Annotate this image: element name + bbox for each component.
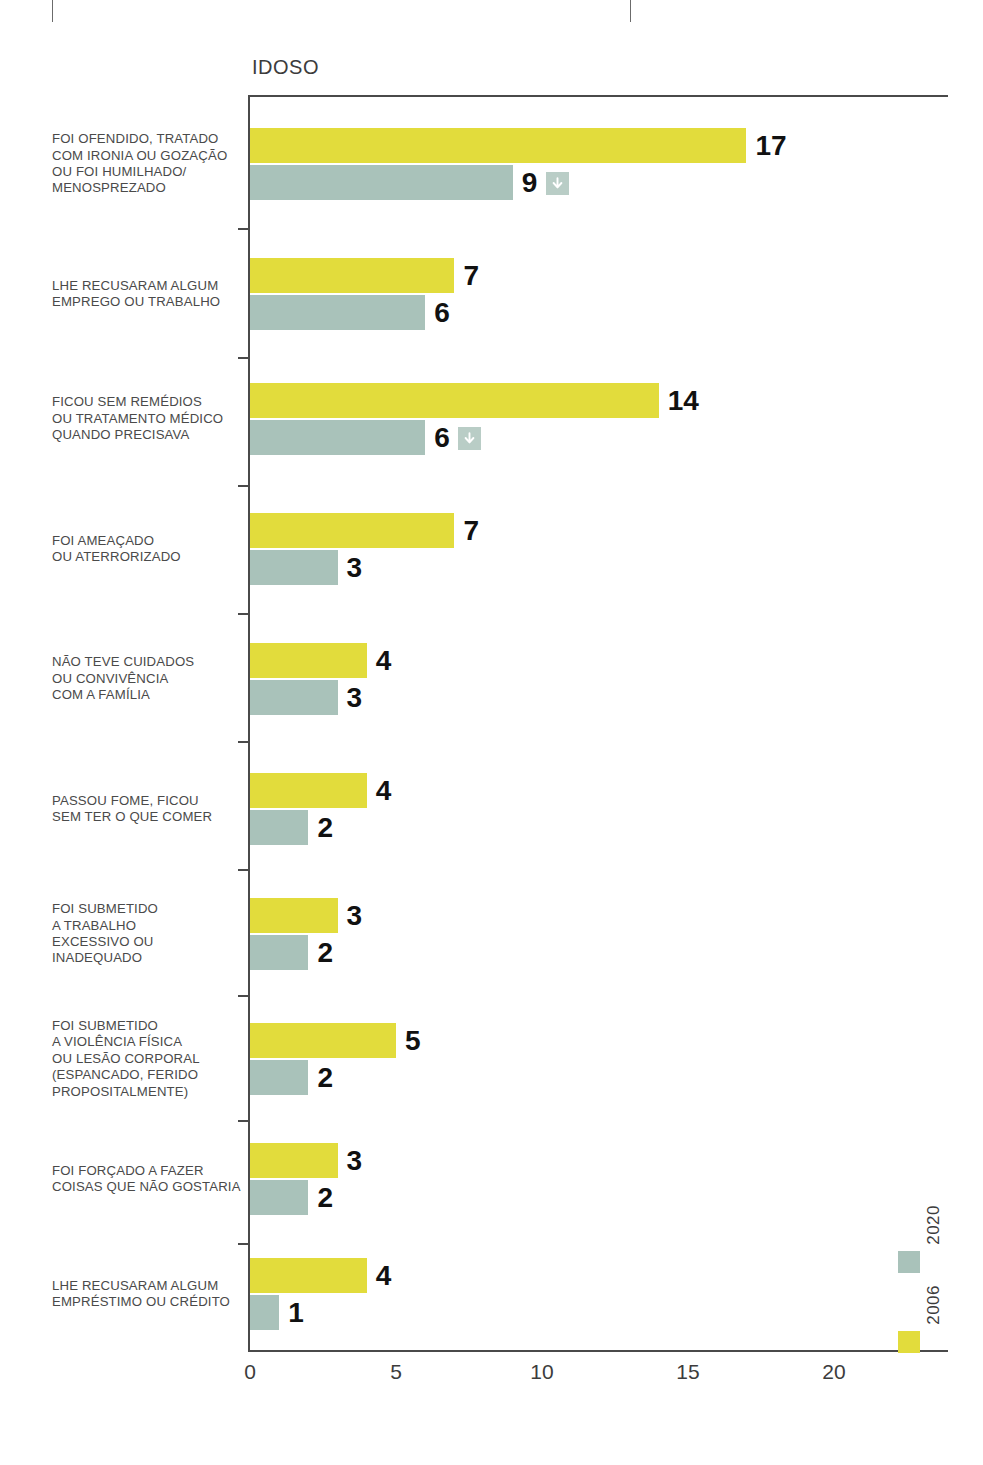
bar-2020-cat-6[interactable]	[250, 935, 308, 970]
bar-2006-cat-9[interactable]	[250, 1258, 367, 1293]
bar-value-2020-cat-6: 2	[317, 939, 333, 967]
bar-2020-cat-8[interactable]	[250, 1180, 308, 1215]
category-label-line: COISAS QUE NÃO GOSTARIA	[52, 1179, 247, 1195]
category-label-6: FOI SUBMETIDOA TRABALHOEXCESSIVO OUINADE…	[52, 901, 247, 967]
bar-2006-cat-0[interactable]	[250, 128, 746, 163]
category-label-line: COM A FAMÍLIA	[52, 687, 247, 703]
bar-value-2020-cat-8: 2	[317, 1184, 333, 1212]
category-label-1: LHE RECUSARAM ALGUMEMPREGO OU TRABALHO	[52, 278, 247, 311]
category-label-8: FOI FORÇADO A FAZERCOISAS QUE NÃO GOSTAR…	[52, 1163, 247, 1196]
x-tick-label-10: 10	[530, 1360, 553, 1384]
legend-swatch-2020	[898, 1251, 920, 1273]
x-tick-label-15: 15	[676, 1360, 699, 1384]
category-label-line: SEM TER O QUE COMER	[52, 809, 247, 825]
bar-2020-cat-9[interactable]	[250, 1295, 279, 1330]
category-label-line: A VIOLÊNCIA FÍSICA	[52, 1034, 247, 1050]
plot-top-rule	[248, 95, 948, 97]
bar-value-2020-cat-1: 6	[434, 299, 450, 327]
bar-2020-cat-4[interactable]	[250, 680, 338, 715]
category-label-line: OU TRATAMENTO MÉDICO	[52, 411, 247, 427]
legend-label-2020: 2020	[924, 1205, 944, 1245]
category-label-line: COM IRONIA OU GOZAÇÃO	[52, 148, 247, 164]
bar-2006-cat-2[interactable]	[250, 383, 659, 418]
arrow-down-icon	[458, 427, 481, 450]
bar-2006-cat-3[interactable]	[250, 513, 454, 548]
bar-value-2006-cat-5: 4	[376, 777, 392, 805]
y-axis-tick-3	[238, 613, 249, 615]
bar-value-2020-cat-5: 2	[317, 814, 333, 842]
category-label-line: FICOU SEM REMÉDIOS	[52, 394, 247, 410]
crop-mark-left	[52, 0, 53, 22]
bar-value-2006-cat-0: 17	[755, 132, 786, 160]
x-tick-label-0: 0	[244, 1360, 256, 1384]
y-axis-tick-1	[238, 357, 249, 359]
chart-canvas: IDOSO 05101520 FOI OFENDIDO, TRATADOCOM …	[0, 0, 983, 1465]
category-label-line: PASSOU FOME, FICOU	[52, 793, 247, 809]
bar-value-2006-cat-4: 4	[376, 647, 392, 675]
chart-legend: 2020 2006	[898, 1205, 958, 1345]
bar-value-2020-cat-9: 1	[288, 1299, 304, 1327]
y-axis-tick-0	[238, 228, 249, 230]
category-label-line: INADEQUADO	[52, 950, 247, 966]
category-label-line: MENOSPREZADO	[52, 180, 247, 196]
bar-value-2006-cat-9: 4	[376, 1262, 392, 1290]
bar-2020-cat-0[interactable]	[250, 165, 513, 200]
chart-title: IDOSO	[252, 56, 319, 79]
bar-value-2020-cat-2: 6	[434, 424, 450, 452]
category-label-5: PASSOU FOME, FICOUSEM TER O QUE COMER	[52, 793, 247, 826]
category-label-line: FOI AMEAÇADO	[52, 533, 247, 549]
category-label-line: OU FOI HUMILHADO/	[52, 164, 247, 180]
category-label-3: FOI AMEAÇADOOU ATERRORIZADO	[52, 533, 247, 566]
category-label-line: PROPOSITALMENTE)	[52, 1084, 247, 1100]
category-label-line: FOI SUBMETIDO	[52, 1018, 247, 1034]
x-tick-label-5: 5	[390, 1360, 402, 1384]
category-label-line: OU CONVIVÊNCIA	[52, 671, 247, 687]
bar-2006-cat-8[interactable]	[250, 1143, 338, 1178]
arrow-down-icon	[546, 172, 569, 195]
category-label-line: LHE RECUSARAM ALGUM	[52, 278, 247, 294]
bar-2020-cat-2[interactable]	[250, 420, 425, 455]
y-axis-tick-2	[238, 485, 249, 487]
category-label-0: FOI OFENDIDO, TRATADOCOM IRONIA OU GOZAÇ…	[52, 131, 247, 197]
bar-2006-cat-6[interactable]	[250, 898, 338, 933]
category-label-7: FOI SUBMETIDOA VIOLÊNCIA FÍSICAOU LESÃO …	[52, 1018, 247, 1100]
bar-2006-cat-1[interactable]	[250, 258, 454, 293]
y-axis-tick-7	[238, 1120, 249, 1122]
bar-2020-cat-7[interactable]	[250, 1060, 308, 1095]
category-label-4: NÃO TEVE CUIDADOSOU CONVIVÊNCIACOM A FAM…	[52, 654, 247, 703]
x-axis-line	[248, 1350, 948, 1352]
bar-2006-cat-7[interactable]	[250, 1023, 396, 1058]
category-label-line: A TRABALHO	[52, 918, 247, 934]
category-label-line: OU ATERRORIZADO	[52, 549, 247, 565]
bar-2020-cat-3[interactable]	[250, 550, 338, 585]
bar-2006-cat-5[interactable]	[250, 773, 367, 808]
y-axis-tick-8	[238, 1243, 249, 1245]
bar-2006-cat-4[interactable]	[250, 643, 367, 678]
bar-value-2020-cat-0: 9	[522, 169, 538, 197]
category-label-line: FOI FORÇADO A FAZER	[52, 1163, 247, 1179]
y-axis-tick-4	[238, 741, 249, 743]
bar-value-2006-cat-1: 7	[463, 262, 479, 290]
category-label-line: QUANDO PRECISAVA	[52, 427, 247, 443]
bar-value-2006-cat-8: 3	[347, 1147, 363, 1175]
x-tick-label-20: 20	[822, 1360, 845, 1384]
category-label-line: EMPREGO OU TRABALHO	[52, 294, 247, 310]
bar-value-2006-cat-7: 5	[405, 1027, 421, 1055]
bar-2020-cat-1[interactable]	[250, 295, 425, 330]
category-label-2: FICOU SEM REMÉDIOSOU TRATAMENTO MÉDICOQU…	[52, 394, 247, 443]
legend-swatch-2006	[898, 1331, 920, 1353]
bar-value-2006-cat-3: 7	[463, 517, 479, 545]
category-label-line: LHE RECUSARAM ALGUM	[52, 1278, 247, 1294]
bar-value-2006-cat-2: 14	[668, 387, 699, 415]
category-label-9: LHE RECUSARAM ALGUMEMPRÉSTIMO OU CRÉDITO	[52, 1278, 247, 1311]
bar-value-2020-cat-4: 3	[347, 684, 363, 712]
category-label-line: EMPRÉSTIMO OU CRÉDITO	[52, 1294, 247, 1310]
category-label-line: FOI SUBMETIDO	[52, 901, 247, 917]
bar-value-2020-cat-7: 2	[317, 1064, 333, 1092]
category-label-line: OU LESÃO CORPORAL	[52, 1051, 247, 1067]
legend-label-2006: 2006	[924, 1285, 944, 1325]
category-label-line: (ESPANCADO, FERIDO	[52, 1067, 247, 1083]
category-label-line: EXCESSIVO OU	[52, 934, 247, 950]
bar-2020-cat-5[interactable]	[250, 810, 308, 845]
y-axis-tick-6	[238, 995, 249, 997]
